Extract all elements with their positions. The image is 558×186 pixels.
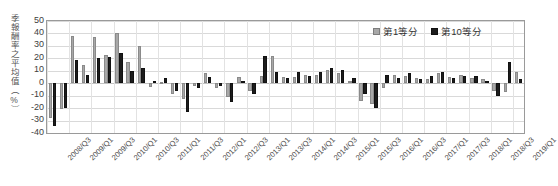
bar-tenth-decile bbox=[441, 72, 444, 83]
bar-tenth-decile bbox=[263, 56, 266, 83]
x-tick-2010/Q1: 2010/Q1 bbox=[133, 136, 159, 162]
bar-tenth-decile bbox=[419, 79, 422, 83]
bar-group bbox=[324, 21, 335, 133]
bar-first-decile bbox=[393, 75, 396, 84]
bar-first-decile bbox=[248, 83, 251, 90]
bar-group bbox=[347, 21, 358, 133]
y-tick-30: 30 bbox=[34, 40, 44, 49]
x-tick-2018/Q3: 2018/Q3 bbox=[510, 136, 536, 162]
chart-legend: 第1等分 第10等分 bbox=[373, 24, 482, 38]
x-tick-2015/Q3: 2015/Q3 bbox=[377, 136, 403, 162]
x-tick-2015/Q1: 2015/Q1 bbox=[354, 136, 380, 162]
bar-first-decile bbox=[215, 83, 218, 88]
bar-first-decile bbox=[337, 73, 340, 83]
x-tick-2014/Q1: 2014/Q1 bbox=[310, 136, 336, 162]
bar-first-decile bbox=[60, 83, 63, 109]
bar-first-decile bbox=[160, 82, 163, 84]
bar-tenth-decile bbox=[86, 75, 89, 84]
bar-first-decile bbox=[82, 65, 85, 84]
bar-first-decile bbox=[515, 72, 518, 83]
y-tick--40: -40 bbox=[31, 128, 44, 137]
legend-label-first-decile: 第1等分 bbox=[383, 24, 418, 38]
bar-tenth-decile bbox=[308, 76, 311, 83]
legend-swatch-icon-tenth-decile bbox=[431, 28, 438, 35]
bar-tenth-decile bbox=[496, 83, 499, 95]
legend-label-tenth-decile: 第10等分 bbox=[441, 24, 482, 38]
y-tick--10: -10 bbox=[31, 90, 44, 99]
bar-tenth-decile bbox=[252, 83, 255, 94]
bar-tenth-decile bbox=[397, 78, 400, 83]
bar-first-decile bbox=[470, 78, 473, 83]
bar-first-decile bbox=[293, 77, 296, 83]
bar-tenth-decile bbox=[352, 78, 355, 83]
bar-group bbox=[224, 21, 235, 133]
bar-first-decile bbox=[326, 70, 329, 84]
bar-tenth-decile bbox=[241, 81, 244, 83]
y-tick--30: -30 bbox=[31, 115, 44, 124]
bar-tenth-decile bbox=[119, 53, 122, 83]
bar-tenth-decile bbox=[485, 81, 488, 83]
x-tick-2009/Q1: 2009/Q1 bbox=[88, 136, 114, 162]
bar-group bbox=[47, 21, 58, 133]
bar-tenth-decile bbox=[175, 83, 178, 90]
x-tick-2012/Q3: 2012/Q3 bbox=[244, 136, 270, 162]
bar-first-decile bbox=[115, 33, 118, 83]
bar-first-decile bbox=[304, 75, 307, 84]
bar-tenth-decile bbox=[53, 83, 56, 125]
bar-group bbox=[202, 21, 213, 133]
bar-group bbox=[269, 21, 280, 133]
x-tick-2012/Q1: 2012/Q1 bbox=[221, 136, 247, 162]
bar-group bbox=[80, 21, 91, 133]
legend-swatch-icon-first-decile bbox=[373, 28, 380, 35]
bar-tenth-decile bbox=[463, 76, 466, 83]
bar-first-decile bbox=[415, 78, 418, 83]
bar-first-decile bbox=[260, 76, 263, 83]
bar-first-decile bbox=[237, 77, 240, 83]
bar-group bbox=[191, 21, 202, 133]
bar-first-decile bbox=[204, 73, 207, 83]
bar-first-decile bbox=[271, 56, 274, 83]
bar-tenth-decile bbox=[219, 83, 222, 85]
bar-group bbox=[213, 21, 224, 133]
y-tick-0: 0 bbox=[39, 78, 44, 87]
bar-first-decile bbox=[492, 83, 495, 90]
bar-tenth-decile bbox=[75, 60, 78, 84]
bar-first-decile bbox=[49, 83, 52, 118]
bar-group bbox=[258, 21, 269, 133]
bar-first-decile bbox=[481, 79, 484, 83]
bar-first-decile bbox=[193, 83, 196, 85]
bar-tenth-decile bbox=[319, 72, 322, 83]
bar-group bbox=[247, 21, 258, 133]
bar-first-decile bbox=[370, 83, 373, 104]
bar-tenth-decile bbox=[330, 68, 333, 83]
x-tick-2016/Q3: 2016/Q3 bbox=[421, 136, 447, 162]
bar-group bbox=[169, 21, 180, 133]
y-axis-title: 季報酬率之平均值（%） bbox=[4, 14, 18, 146]
bar-first-decile bbox=[182, 83, 185, 99]
bar-group bbox=[69, 21, 80, 133]
bar-first-decile bbox=[504, 83, 507, 92]
bar-tenth-decile bbox=[385, 75, 388, 84]
bar-tenth-decile bbox=[430, 76, 433, 83]
x-tick-2016/Q1: 2016/Q1 bbox=[399, 136, 425, 162]
bar-first-decile bbox=[426, 79, 429, 83]
bar-tenth-decile bbox=[141, 68, 144, 83]
bar-group bbox=[147, 21, 158, 133]
bar-group bbox=[125, 21, 136, 133]
x-tick-2008/Q3: 2008/Q3 bbox=[66, 136, 92, 162]
bar-tenth-decile bbox=[519, 79, 522, 83]
bar-tenth-decile bbox=[130, 71, 133, 83]
bar-first-decile bbox=[448, 77, 451, 83]
bar-tenth-decile bbox=[363, 83, 366, 94]
bar-tenth-decile bbox=[164, 78, 167, 83]
bar-tenth-decile bbox=[230, 83, 233, 102]
x-tick-2017/Q1: 2017/Q1 bbox=[443, 136, 469, 162]
x-tick-2013/Q1: 2013/Q1 bbox=[266, 136, 292, 162]
bar-group bbox=[513, 21, 524, 133]
bar-first-decile bbox=[348, 81, 351, 83]
y-tick-40: 40 bbox=[34, 28, 44, 37]
y-axis-tick-labels: 50403020100-10-20-30-40 bbox=[18, 15, 44, 139]
bar-tenth-decile bbox=[197, 83, 200, 88]
bar-group bbox=[91, 21, 102, 133]
